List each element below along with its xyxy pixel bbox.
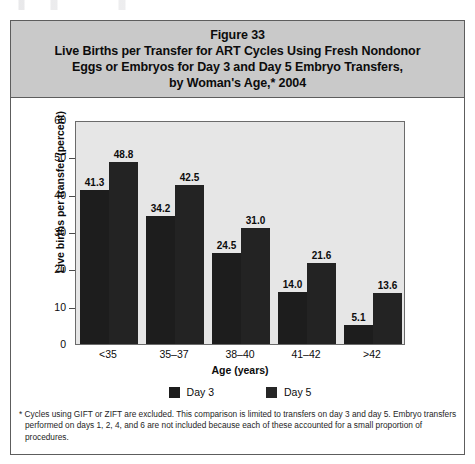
legend-swatch: [266, 387, 277, 398]
y-axis-tick-label: 40: [54, 189, 66, 201]
x-axis-category-label: 35–37: [141, 348, 207, 360]
figure-number: Figure 33: [210, 27, 265, 43]
bar-day3[interactable]: [344, 325, 373, 344]
figure-title-line-1: Live Births per Transfer for ART Cycles …: [55, 43, 421, 59]
bar-group: 34.242.5: [146, 120, 204, 344]
bar-group: 24.531.0: [212, 120, 270, 344]
y-axis-tick-label: 30: [54, 226, 66, 238]
bar-value-label: 13.6: [367, 280, 408, 291]
figure-footnote: * Cycles using GIFT or ZIFT are excluded…: [19, 409, 459, 443]
scan-artifact: [0, 0, 475, 10]
x-axis-category-label: 38–40: [207, 348, 273, 360]
bar-value-label: 21.6: [301, 250, 342, 261]
legend-item-day-5[interactable]: Day 5: [266, 386, 311, 398]
plot-area: 41.348.834.242.524.531.014.021.65.113.6: [75, 121, 405, 345]
legend-item-day-3[interactable]: Day 3: [169, 386, 214, 398]
y-axis-tick-label: 20: [54, 263, 66, 275]
bar-group: 14.021.6: [278, 120, 336, 344]
bar-day3[interactable]: [80, 190, 109, 344]
figure-title-line-2: Eggs or Embryos for Day 3 and Day 5 Embr…: [72, 59, 403, 75]
x-axis-category-label: <35: [75, 348, 141, 360]
x-axis-category-label: >42: [339, 348, 405, 360]
y-axis-tick-label: 60: [54, 114, 66, 126]
bar-day5[interactable]: [307, 263, 336, 344]
legend-label: Day 3: [187, 386, 214, 398]
chart-legend: Day 3Day 5: [75, 386, 405, 398]
x-axis-category-label: 41–42: [273, 348, 339, 360]
y-axis-tick-label: 50: [54, 151, 66, 163]
y-axis-tick-label: 10: [54, 301, 66, 313]
bar-day5[interactable]: [175, 185, 204, 344]
bar-value-label: 31.0: [235, 215, 276, 226]
bar-day3[interactable]: [146, 216, 175, 344]
bar-day5[interactable]: [373, 293, 402, 344]
bar-group: 5.113.6: [344, 120, 402, 344]
legend-swatch: [169, 387, 180, 398]
bar-day5[interactable]: [109, 162, 138, 344]
y-axis-tick-label: 0: [60, 338, 66, 350]
chart-region: Live births per transfer (percent) 01020…: [11, 98, 464, 403]
bar-day5[interactable]: [241, 228, 270, 344]
bar-value-label: 48.8: [103, 149, 144, 160]
x-axis-title: Age (years): [75, 364, 405, 376]
figure-title-line-3: by Woman's Age,* 2004: [169, 75, 306, 91]
bar-day3[interactable]: [278, 292, 307, 344]
y-axis-tick-mark: [69, 345, 75, 346]
bar-group: 41.348.8: [80, 120, 138, 344]
bar-day3[interactable]: [212, 253, 241, 344]
bar-value-label: 42.5: [169, 172, 210, 183]
legend-label: Day 5: [284, 386, 311, 398]
figure-title-band: Figure 33 Live Births per Transfer for A…: [10, 20, 465, 98]
